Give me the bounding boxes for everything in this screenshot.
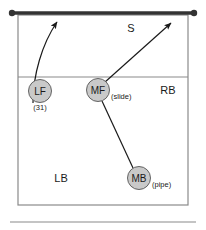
- zone-label-rb: RB: [160, 84, 175, 96]
- court-diagram-canvas: S RB LB LF (31) MF (slide) MB (pipe): [0, 0, 206, 230]
- player-note-mf: (slide): [111, 92, 132, 101]
- player-label-mf: MF: [91, 85, 105, 96]
- player-label-mb: MB: [132, 173, 147, 184]
- net-post-left: [9, 10, 15, 16]
- volleyball-diagram: S RB LB LF (31) MF (slide) MB (pipe): [0, 0, 206, 230]
- player-note-mb: (pipe): [152, 180, 172, 189]
- zone-label-lb: LB: [54, 172, 67, 184]
- player-note-lf: (31): [33, 103, 47, 112]
- player-label-lf: LF: [34, 86, 46, 97]
- net-post-right: [191, 10, 197, 16]
- zone-label-s: S: [127, 22, 134, 34]
